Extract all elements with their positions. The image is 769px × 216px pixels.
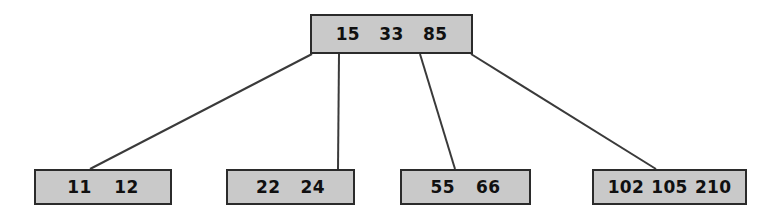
b-tree-diagram: 15 33 85 11 12 22 24 55 66 102 105 210	[0, 0, 769, 216]
leaf-1-key-0: 22	[256, 179, 280, 196]
edge-root-to-leaf-0	[90, 54, 312, 169]
root-key-0: 15	[336, 26, 360, 43]
edge-root-to-leaf-3	[471, 54, 656, 169]
btree-leaf-node-2: 55 66	[400, 169, 531, 205]
root-key-2: 85	[423, 26, 447, 43]
leaf-3-key-1: 105	[651, 179, 687, 196]
leaf-2-key-0: 55	[431, 179, 455, 196]
edge-root-to-leaf-1	[338, 54, 339, 169]
leaf-0-key-1: 12	[114, 179, 138, 196]
root-key-1: 33	[379, 26, 403, 43]
leaf-2-key-1: 66	[476, 179, 500, 196]
leaf-3-key-2: 210	[695, 179, 731, 196]
btree-leaf-node-3: 102 105 210	[592, 169, 747, 205]
leaf-0-key-0: 11	[67, 179, 91, 196]
leaf-1-key-1: 24	[301, 179, 325, 196]
btree-leaf-node-0: 11 12	[34, 169, 172, 205]
edge-root-to-leaf-2	[420, 54, 455, 169]
btree-leaf-node-1: 22 24	[226, 169, 355, 205]
btree-root-node: 15 33 85	[310, 14, 473, 54]
leaf-3-key-0: 102	[608, 179, 644, 196]
